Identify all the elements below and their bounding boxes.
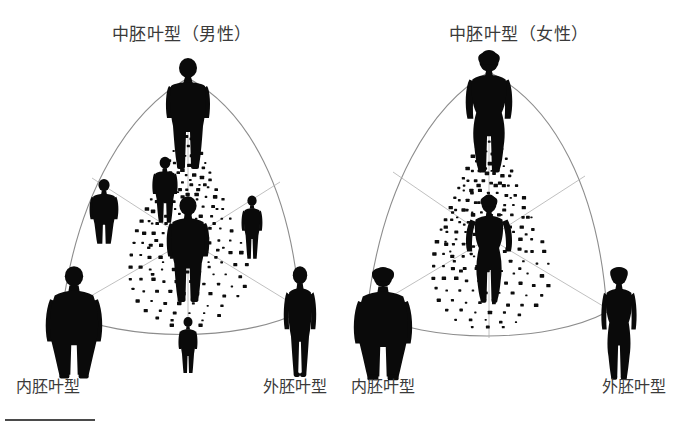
data-point: [442, 265, 445, 267]
data-point: [187, 164, 191, 167]
data-point: [431, 277, 435, 280]
data-point: [454, 277, 459, 281]
data-point: [488, 141, 491, 143]
data-point: [518, 267, 521, 270]
data-point: [211, 205, 215, 208]
data-point: [454, 230, 458, 233]
data-point: [540, 294, 543, 297]
data-point: [442, 253, 445, 255]
data-point: [474, 312, 476, 314]
data-point: [214, 256, 217, 259]
data-point: [217, 314, 221, 317]
data-point: [521, 216, 524, 219]
data-point: [505, 194, 509, 197]
data-point: [209, 172, 212, 174]
data-point: [526, 216, 530, 219]
data-point: [222, 247, 225, 249]
data-point: [522, 260, 525, 262]
left-mid-figure-male: [90, 179, 119, 244]
data-point: [212, 222, 216, 225]
data-point: [451, 299, 454, 302]
data-point: [503, 165, 505, 167]
female-silhouettes: [354, 50, 637, 380]
data-point: [449, 206, 453, 209]
data-point: [229, 240, 232, 242]
data-point: [189, 183, 193, 186]
data-point: [445, 290, 448, 292]
data-point: [170, 323, 174, 327]
data-point: [239, 251, 244, 255]
data-point: [450, 255, 454, 258]
data-point: [228, 251, 232, 254]
data-point: [440, 228, 443, 230]
data-point: [531, 228, 535, 231]
data-point: [210, 215, 213, 217]
data-point: [135, 229, 139, 232]
data-point: [217, 239, 220, 241]
data-point: [178, 213, 181, 215]
data-point: [515, 184, 518, 187]
data-point: [207, 186, 210, 188]
data-point: [525, 233, 528, 235]
data-point: [498, 182, 502, 185]
data-point: [225, 273, 227, 275]
data-point: [163, 302, 167, 305]
data-point: [465, 302, 468, 304]
data-point: [185, 188, 188, 191]
data-point: [177, 171, 181, 174]
data-point: [188, 312, 190, 314]
data-point: [173, 150, 175, 152]
data-point: [520, 225, 524, 228]
data-point: [519, 282, 523, 285]
data-point: [130, 254, 133, 257]
data-point: [150, 300, 153, 302]
data-point: [144, 309, 148, 312]
data-point: [154, 239, 158, 242]
data-point: [454, 209, 457, 211]
female-endomorph-label: 内胚叶型: [351, 373, 415, 397]
data-point: [452, 243, 455, 246]
data-point: [466, 199, 470, 202]
data-point: [453, 197, 456, 200]
data-point: [432, 265, 435, 268]
data-point: [212, 273, 214, 275]
data-point: [546, 284, 550, 287]
data-point: [502, 184, 506, 187]
data-point: [173, 162, 176, 165]
data-point: [148, 256, 152, 259]
endomorph-corner-figure-male: [46, 266, 102, 378]
data-point: [159, 309, 162, 312]
data-point: [444, 225, 448, 228]
data-point: [458, 199, 461, 201]
data-point: [220, 261, 223, 263]
data-point: [140, 219, 144, 222]
data-point: [530, 216, 532, 218]
data-point: [497, 213, 501, 216]
data-point: [444, 241, 446, 243]
data-point: [513, 273, 516, 275]
data-point: [162, 232, 165, 234]
data-point: [459, 269, 463, 272]
data-point: [219, 227, 222, 229]
data-point: [505, 158, 508, 160]
data-point: [198, 184, 200, 186]
data-point: [238, 275, 242, 278]
data-point: [507, 184, 510, 186]
data-point: [496, 192, 499, 194]
data-point: [465, 167, 470, 171]
data-point: [142, 232, 146, 235]
data-point: [243, 285, 247, 288]
data-point: [189, 179, 192, 181]
data-point: [454, 319, 457, 321]
data-point: [177, 302, 182, 306]
male-silhouettes: [46, 58, 316, 378]
data-point: [469, 318, 473, 321]
data-point: [213, 195, 218, 199]
data-point: [536, 263, 539, 265]
data-point: [168, 290, 172, 293]
data-point: [155, 316, 159, 319]
data-point: [509, 260, 513, 263]
data-point: [471, 212, 473, 214]
ectomorph-corner-figure-female: [601, 267, 636, 380]
data-point: [221, 198, 224, 201]
